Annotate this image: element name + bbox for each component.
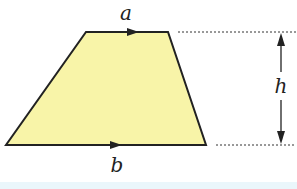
label-b: b [111, 153, 124, 177]
trapezium-diagram: a b h [0, 0, 297, 189]
height-arrowhead-up-icon [277, 33, 285, 46]
height-arrowhead-down-icon [277, 131, 285, 144]
label-h: h [275, 74, 288, 98]
trapezium-shape [6, 32, 206, 145]
label-a: a [120, 1, 132, 25]
